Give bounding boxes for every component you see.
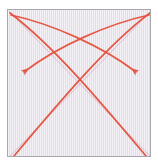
- diagram-canvas: [8, 10, 151, 157]
- arrow-layer: [11, 15, 149, 72]
- figure-description: Square lavender panel with two faint pin…: [0, 0, 1, 1]
- caption-area: [0, 157, 158, 165]
- figure-title: [0, 0, 1, 1]
- figure-root: Square lavender panel with two faint pin…: [0, 0, 158, 165]
- diagonal-guides-layer: [9, 11, 151, 157]
- figure-caption: [0, 157, 1, 158]
- plot-frame: [7, 9, 151, 157]
